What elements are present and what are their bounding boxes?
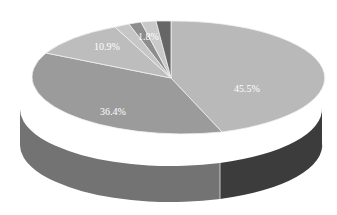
label-10-9: 10.9% xyxy=(94,41,120,52)
label-1-8: 1.8% xyxy=(138,31,159,42)
pie-chart: 45.5% 36.4% 10.9% 1.8% xyxy=(0,0,337,215)
pie-top xyxy=(32,21,325,134)
label-36-4: 36.4% xyxy=(100,106,126,117)
legend-cut-off xyxy=(40,209,300,215)
label-45-5: 45.5% xyxy=(234,83,260,94)
